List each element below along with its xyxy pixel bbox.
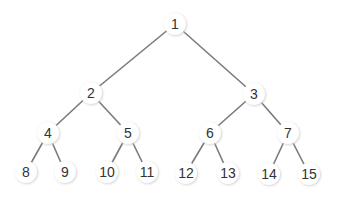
tree-node-label: 13: [216, 161, 240, 185]
tree-node-label: 6: [198, 121, 222, 145]
tree-edges: [26, 24, 309, 174]
tree-node-label: 14: [257, 162, 281, 186]
tree-node-label: 9: [53, 160, 77, 184]
tree-node-label: 4: [36, 121, 60, 145]
tree-node-label: 2: [79, 81, 103, 105]
tree-node-label: 15: [297, 162, 321, 186]
tree-node-label: 11: [135, 160, 159, 184]
tree-node-label: 12: [174, 161, 198, 185]
tree-node-label: 5: [116, 121, 140, 145]
tree-node-label: 1: [163, 12, 187, 36]
tree-node-label: 10: [95, 160, 119, 184]
tree-node-label: 7: [276, 121, 300, 145]
tree-node-label: 3: [242, 82, 266, 106]
tree-node-label: 8: [14, 160, 38, 184]
